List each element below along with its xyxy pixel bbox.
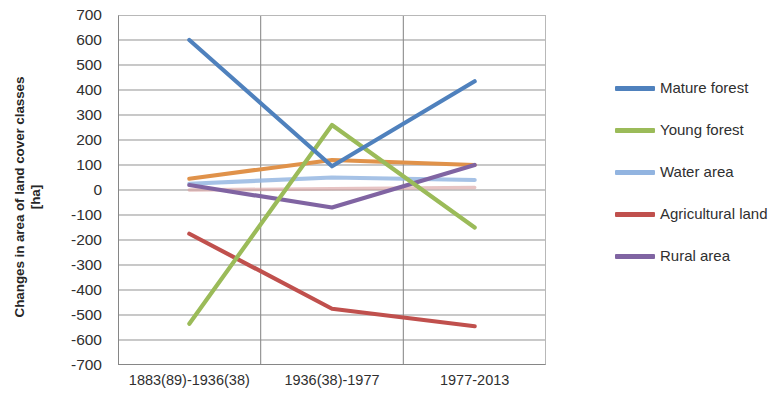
legend-swatch-icon xyxy=(615,254,655,259)
legend-label: Rural area xyxy=(660,246,730,266)
y-axis-tick-label: 300 xyxy=(32,106,102,124)
y-axis-tick-label: 700 xyxy=(32,6,102,24)
legend-swatch-icon xyxy=(615,212,655,217)
legend-swatch-icon xyxy=(615,86,655,91)
legend-swatch-icon xyxy=(615,128,655,133)
y-axis-tick-label: -400 xyxy=(32,281,102,299)
line-chart: Changes in area of land cover classes [h… xyxy=(0,0,781,405)
chart-legend: Mature forestYoung forestWater areaAgric… xyxy=(615,78,781,288)
y-axis-tick-label: -100 xyxy=(32,206,102,224)
y-axis-tick-label: -500 xyxy=(32,306,102,324)
y-axis-tick-label: 200 xyxy=(32,131,102,149)
legend-entry[interactable]: Rural area xyxy=(615,246,781,268)
y-axis-tick-label: 400 xyxy=(32,81,102,99)
y-axis-tick-label: -200 xyxy=(32,231,102,249)
x-axis-tick-labels: 1883(89)-1936(38)1936(38)-19771977-2013 xyxy=(118,372,546,400)
y-axis-title-line-1: Changes in area of land cover classes xyxy=(12,77,28,318)
y-axis-tick-label: -300 xyxy=(32,256,102,274)
y-axis-tick-label: 600 xyxy=(32,31,102,49)
x-axis-tick-label: 1936(38)-1977 xyxy=(284,372,379,388)
x-axis-tick-label: 1977-2013 xyxy=(440,372,509,388)
legend-label: Water area xyxy=(660,162,734,182)
x-axis-tick-label: 1883(89)-1936(38) xyxy=(129,372,250,388)
y-axis-tick-label: 100 xyxy=(32,156,102,174)
y-axis-tick-labels: 7006005004003002001000-100-200-300-400-5… xyxy=(32,15,110,365)
y-axis-tick-label: -600 xyxy=(32,331,102,349)
legend-entry[interactable]: Agricultural land xyxy=(615,204,781,226)
legend-label: Agricultural land xyxy=(660,204,768,224)
y-axis-tick-label: 0 xyxy=(32,181,102,199)
plot-area xyxy=(118,15,546,365)
y-axis-tick-label: -700 xyxy=(32,356,102,374)
legend-entry[interactable]: Water area xyxy=(615,162,781,184)
plot-frame xyxy=(118,15,546,365)
legend-entry[interactable]: Young forest xyxy=(615,120,781,142)
y-axis-tick-label: 500 xyxy=(32,56,102,74)
legend-entry[interactable]: Mature forest xyxy=(615,78,781,100)
legend-swatch-icon xyxy=(615,170,655,175)
legend-label: Young forest xyxy=(660,120,744,140)
legend-label: Mature forest xyxy=(660,78,748,98)
